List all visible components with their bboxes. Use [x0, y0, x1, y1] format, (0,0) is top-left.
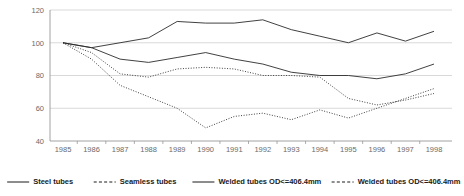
chart-page: 406080100120 198519861987198819891990199… — [0, 0, 464, 196]
x-axis-tick-label: 1996 — [369, 145, 386, 154]
plot-background — [0, 0, 464, 196]
legend-label: Steel tubes — [33, 177, 73, 186]
x-axis-tick-label: 1992 — [254, 145, 271, 154]
x-axis-tick-label: 1987 — [112, 145, 129, 154]
y-axis-tick-label: 80 — [36, 71, 44, 80]
legend-label: Seamless tubes — [120, 177, 177, 186]
y-axis-tick-label: 60 — [36, 104, 44, 113]
x-axis-tick-label: 1985 — [55, 145, 72, 154]
x-axis-tick-label: 1998 — [426, 145, 443, 154]
legend-label: Welded tubes OD<=406.4mm — [218, 177, 321, 186]
x-axis-tick-label: 1994 — [312, 145, 329, 154]
x-axis-tick-label: 1995 — [340, 145, 357, 154]
x-axis-tick-label: 1989 — [169, 145, 186, 154]
x-axis-tick-label: 1988 — [140, 145, 157, 154]
y-axis-tick-label: 120 — [31, 6, 44, 15]
line-chart: 406080100120 198519861987198819891990199… — [0, 0, 464, 196]
x-axis-tick-label: 1990 — [197, 145, 214, 154]
y-axis-tick-label: 40 — [36, 137, 44, 146]
legend-label: Welded tubes OD<=406.4mm — [358, 177, 461, 186]
x-axis-tick-label: 1991 — [226, 145, 243, 154]
x-axis-tick-label: 1997 — [397, 145, 414, 154]
x-axis-tick-label: 1993 — [283, 145, 300, 154]
y-axis-tick-label: 100 — [31, 39, 44, 48]
x-axis-tick-label: 1986 — [83, 145, 100, 154]
